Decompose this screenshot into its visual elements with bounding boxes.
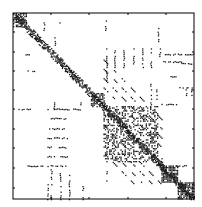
sparsity-plot — [0, 0, 202, 207]
nonzero-markers — [13, 13, 195, 200]
